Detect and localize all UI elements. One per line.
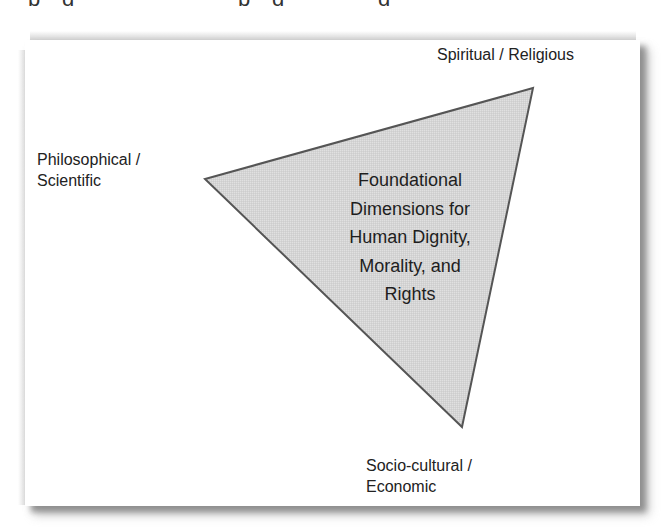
label-socio-cultural-economic: Socio-cultural / Economic bbox=[366, 455, 472, 497]
center-label-line: Dimensions for bbox=[320, 195, 500, 224]
label-spiritual-religious: Spiritual / Religious bbox=[437, 44, 574, 65]
center-label-line: Human Dignity, bbox=[320, 223, 500, 252]
label-line: Economic bbox=[366, 476, 472, 497]
center-label-line: Foundational bbox=[320, 166, 500, 195]
label-line: Philosophical / bbox=[37, 149, 140, 170]
center-label-line: Morality, and bbox=[320, 252, 500, 281]
label-line: Spiritual / Religious bbox=[437, 44, 574, 65]
center-label: Foundational Dimensions for Human Dignit… bbox=[320, 166, 500, 309]
label-line: Socio-cultural / bbox=[366, 455, 472, 476]
center-label-line: Rights bbox=[320, 280, 500, 309]
label-line: Scientific bbox=[37, 170, 140, 191]
label-philosophical-scientific: Philosophical / Scientific bbox=[37, 149, 140, 191]
